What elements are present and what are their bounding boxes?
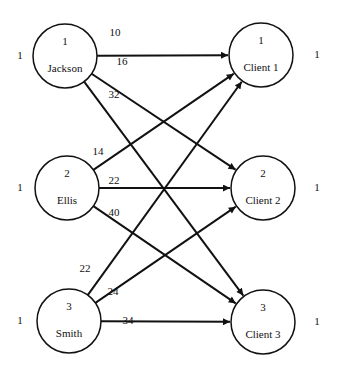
node-id: 3 bbox=[260, 301, 266, 313]
destination-node-client-1: 1Client 11 bbox=[229, 23, 320, 87]
node-id: 3 bbox=[66, 300, 72, 312]
node-name: Client 3 bbox=[245, 328, 281, 340]
node-name: Ellis bbox=[57, 194, 77, 206]
node-id: 2 bbox=[64, 167, 70, 179]
edge-cost-label: 22 bbox=[109, 174, 120, 186]
edge-cost-label: 34 bbox=[123, 314, 135, 326]
demand-value: 1 bbox=[314, 48, 320, 60]
node-name: Jackson bbox=[48, 62, 83, 74]
node-circle bbox=[33, 24, 97, 88]
edge-cost-label: 22 bbox=[80, 262, 91, 274]
source-node-ellis: 2Ellis1 bbox=[17, 156, 99, 220]
node-circle bbox=[229, 23, 293, 87]
node-circle bbox=[37, 289, 101, 353]
supply-value: 1 bbox=[17, 314, 23, 326]
node-circle bbox=[231, 290, 295, 354]
node-id: 2 bbox=[260, 167, 266, 179]
edge-cost-label: 40 bbox=[109, 206, 121, 218]
network-diagram: 101632142240222434 1Jackson12Ellis13Smit… bbox=[0, 0, 337, 377]
node-circle bbox=[35, 156, 99, 220]
edge-cost-label: 14 bbox=[93, 145, 105, 157]
node-circle bbox=[231, 156, 295, 220]
node-id: 1 bbox=[258, 34, 264, 46]
destination-node-client-3: 3Client 31 bbox=[231, 290, 320, 354]
demand-value: 1 bbox=[314, 315, 320, 327]
edge-cost-label: 16 bbox=[117, 55, 129, 67]
supply-value: 1 bbox=[17, 49, 23, 61]
edges-layer: 101632142240222434 bbox=[80, 26, 244, 326]
node-id: 1 bbox=[62, 35, 68, 47]
edge-cost-label: 32 bbox=[109, 88, 120, 100]
source-node-jackson: 1Jackson1 bbox=[17, 24, 97, 88]
node-name: Client 2 bbox=[245, 194, 280, 206]
node-name: Smith bbox=[56, 327, 83, 339]
destination-node-client-2: 2Client 21 bbox=[231, 156, 320, 220]
node-name: Client 1 bbox=[243, 61, 278, 73]
edge-smith-to-client-3 bbox=[101, 321, 230, 322]
demand-value: 1 bbox=[314, 181, 320, 193]
supply-value: 1 bbox=[17, 181, 23, 193]
edge-cost-label: 10 bbox=[110, 26, 122, 38]
source-node-smith: 3Smith1 bbox=[17, 289, 101, 353]
edge-cost-label: 24 bbox=[108, 285, 120, 297]
